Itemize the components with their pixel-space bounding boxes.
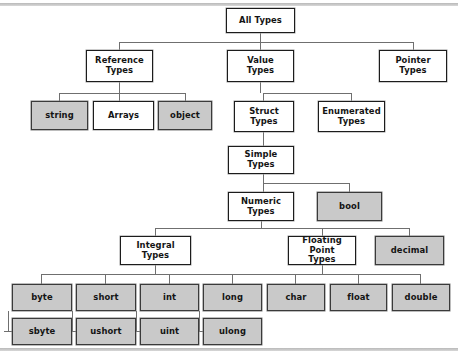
node-struct-types: Struct Types (234, 101, 294, 132)
node-object: object (158, 101, 212, 130)
node-arrays: Arrays (93, 101, 154, 130)
connector-line (185, 93, 186, 101)
connector-line (358, 274, 359, 284)
connector-line (119, 42, 120, 50)
figure-top-rule (0, 3, 458, 6)
connector-line (59, 93, 60, 101)
connector-line (169, 274, 170, 284)
node-reference-types: Reference Types (86, 50, 153, 82)
node-simple-types: Simple Types (228, 146, 294, 174)
connector-line (119, 42, 413, 43)
type-hierarchy-diagram: All TypesReference TypesValue TypesPoint… (0, 0, 458, 356)
node-decimal: decimal (375, 236, 444, 265)
node-short: short (76, 284, 136, 311)
connector-line (260, 33, 261, 42)
node-byte: byte (12, 284, 72, 311)
connector-line (41, 274, 42, 284)
connector-line (8, 311, 9, 331)
connector-line (322, 265, 323, 274)
node-ulong: ulong (203, 318, 262, 345)
node-sbyte: sbyte (12, 318, 72, 345)
connector-line (155, 265, 156, 274)
connector-line (232, 274, 233, 284)
node-integral-types: Integral Types (120, 236, 191, 265)
node-all-types: All Types (226, 8, 295, 33)
connector-line (119, 82, 120, 93)
connector-line (263, 183, 264, 192)
connector-line (349, 183, 350, 192)
connector-line (295, 274, 296, 284)
node-numeric-types: Numeric Types (228, 192, 294, 221)
connector-line (263, 132, 264, 146)
connector-line (260, 82, 261, 93)
figure-bottom-rule (0, 348, 458, 351)
node-value-types: Value Types (227, 50, 294, 82)
connector-line (263, 183, 350, 184)
connector-line (420, 274, 421, 284)
node-char: char (267, 284, 325, 311)
node-string: string (31, 101, 88, 130)
node-int: int (140, 284, 199, 311)
node-double: double (392, 284, 450, 311)
node-uint: uint (140, 318, 199, 345)
connector-line (59, 93, 186, 94)
connector-line (105, 274, 106, 284)
node-bool: bool (317, 192, 382, 221)
connector-line (260, 42, 261, 50)
connector-line (199, 311, 200, 331)
node-floating-point: Floating Point Types (288, 236, 356, 265)
connector-line (413, 42, 414, 50)
connector-line (351, 93, 352, 101)
connector-line (119, 93, 120, 101)
node-long: long (203, 284, 262, 311)
node-enumerated-types: Enumerated Types (318, 101, 385, 132)
connector-line (263, 93, 352, 94)
connector-line (263, 93, 264, 101)
node-ushort: ushort (76, 318, 136, 345)
connector-line (136, 311, 137, 331)
node-pointer-types: Pointer Types (379, 50, 447, 82)
connector-line (263, 174, 264, 183)
connector-line (155, 228, 410, 229)
connector-line (261, 221, 262, 228)
connector-line (409, 228, 410, 236)
connector-line (155, 228, 156, 236)
node-float: float (330, 284, 387, 311)
connector-line (72, 311, 73, 331)
